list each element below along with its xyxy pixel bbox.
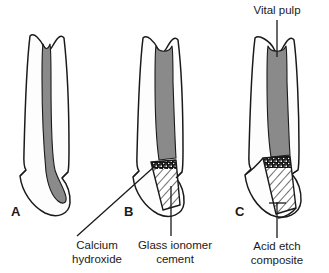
- tooth-b-pulp: [155, 46, 176, 160]
- acid-etch-label-line1: Acid etch: [253, 240, 300, 252]
- tooth-c-pulp: [267, 46, 290, 157]
- panel-b-caption: B: [124, 204, 133, 219]
- calcium-hydroxide-label-line1: Calcium: [76, 239, 118, 251]
- glass-ionomer-label-line2: cement: [156, 253, 195, 265]
- vital-pulp-label: Vital pulp: [253, 4, 300, 16]
- calcium-hydroxide-label-line2: hydroxide: [72, 253, 122, 265]
- panel-a-caption: A: [11, 204, 21, 219]
- glass-ionomer-label-line1: Glass ionomer: [138, 239, 212, 251]
- dental-restoration-diagram: A B C Vital pulp Calci: [0, 0, 329, 273]
- panel-c-caption: C: [235, 204, 245, 219]
- acid-etch-label-line2: composite: [251, 254, 303, 266]
